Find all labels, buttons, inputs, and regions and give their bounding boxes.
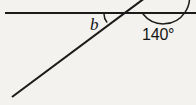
geometry-figure: b 140°	[0, 0, 196, 105]
angle-label-b: b	[90, 16, 99, 33]
angle-arc-b	[104, 14, 107, 22]
angle-label-140: 140°	[142, 27, 174, 43]
angle-arc-140	[137, 0, 189, 24]
transversal-ray	[12, 0, 144, 97]
